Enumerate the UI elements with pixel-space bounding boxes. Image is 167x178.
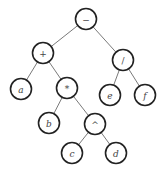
- node-label: +: [39, 49, 47, 59]
- node-label: *: [65, 84, 70, 94]
- node-label: c: [69, 149, 74, 159]
- node-label: ^: [91, 120, 99, 130]
- tree-node-divide: /: [113, 50, 134, 71]
- tree-node-c: c: [62, 143, 83, 164]
- tree-node-times: *: [57, 78, 78, 99]
- node-label: −: [82, 15, 90, 25]
- tree-edges: [21, 19, 145, 153]
- tree-node-b: b: [39, 113, 60, 134]
- node-label: b: [46, 119, 52, 129]
- node-label: d: [113, 149, 119, 159]
- tree-node-power: ^: [85, 114, 106, 135]
- expression-tree-diagram: −+/a*efb^cd: [0, 0, 167, 178]
- node-label: a: [18, 85, 23, 95]
- tree-node-a: a: [11, 79, 32, 100]
- tree-node-minus: −: [76, 9, 97, 30]
- tree-node-f: f: [135, 85, 156, 106]
- tree-node-e: e: [100, 85, 121, 106]
- tree-node-d: d: [106, 143, 127, 164]
- tree-nodes: −+/a*efb^cd: [11, 9, 156, 164]
- tree-node-plus: +: [33, 43, 54, 64]
- node-label: e: [107, 91, 112, 101]
